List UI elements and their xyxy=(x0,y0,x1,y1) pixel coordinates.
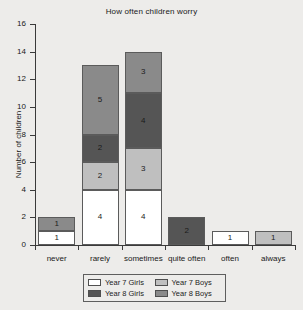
x-axis-tick xyxy=(165,245,166,250)
x-axis-tick xyxy=(35,245,36,250)
x-axis-tick-label: sometimes xyxy=(122,254,165,263)
x-axis-tick xyxy=(122,245,123,250)
bar-segment[interactable]: 1 xyxy=(212,231,249,245)
bar-segment[interactable]: 1 xyxy=(255,231,292,245)
x-axis-tick xyxy=(208,245,209,250)
bar-stack[interactable]: 4225 xyxy=(82,24,119,245)
chart-title: How often children worry xyxy=(0,7,303,16)
legend-swatch-icon xyxy=(88,279,101,286)
bar-segment-value: 4 xyxy=(141,117,145,125)
x-axis-tick xyxy=(252,245,253,250)
y-axis-tick-label: 4 xyxy=(0,186,26,194)
bar-segment[interactable]: 1 xyxy=(38,231,75,245)
bar-segment[interactable]: 4 xyxy=(125,190,162,245)
y-axis-tick-label: 8 xyxy=(0,131,26,139)
bar-segment[interactable]: 5 xyxy=(82,65,119,134)
x-axis-tick-label: quite often xyxy=(165,254,208,263)
x-axis-tick-label: never xyxy=(35,254,78,263)
bar-segment-value: 1 xyxy=(54,234,58,242)
x-axis-tick-label: rarely xyxy=(78,254,121,263)
bar-segment-value: 2 xyxy=(184,227,188,235)
bar-segment-value: 1 xyxy=(271,234,275,242)
legend-swatch-icon xyxy=(88,290,101,297)
legend-row: Year 7 GirlsYear 7 Boys xyxy=(88,277,221,288)
bar-segment[interactable]: 2 xyxy=(168,217,205,245)
y-axis-tick-label: 0 xyxy=(0,241,26,249)
chart-legend: Year 7 GirlsYear 7 BoysYear 8 GirlsYear … xyxy=(83,274,226,302)
bar-stack[interactable]: 1 xyxy=(212,24,249,245)
bar-segment[interactable]: 4 xyxy=(82,190,119,245)
bar-segment[interactable]: 2 xyxy=(82,135,119,163)
x-axis-tick-label: often xyxy=(208,254,251,263)
x-axis-tick xyxy=(78,245,79,250)
y-axis-tick-label: 10 xyxy=(0,103,26,111)
legend-label: Year 8 Boys xyxy=(172,290,212,298)
bar-stack[interactable]: 4343 xyxy=(125,24,162,245)
legend-item[interactable]: Year 8 Boys xyxy=(155,290,222,298)
bar-segment-value: 3 xyxy=(141,165,145,173)
bar-segment[interactable]: 1 xyxy=(38,217,75,231)
legend-label: Year 7 Boys xyxy=(172,279,212,287)
y-axis-tick-label: 14 xyxy=(0,48,26,56)
bar-segment[interactable]: 4 xyxy=(125,93,162,148)
bar-segment-value: 4 xyxy=(141,213,145,221)
legend-label: Year 8 Girls xyxy=(105,290,144,298)
legend-item[interactable]: Year 8 Girls xyxy=(88,290,155,298)
y-axis-tick-label: 6 xyxy=(0,158,26,166)
legend-label: Year 7 Girls xyxy=(105,279,144,287)
bar-stack[interactable]: 1 xyxy=(255,24,292,245)
x-axis-tick xyxy=(295,245,296,250)
legend-swatch-icon xyxy=(155,290,168,297)
bar-segment-value: 3 xyxy=(141,68,145,76)
legend-item[interactable]: Year 7 Girls xyxy=(88,279,155,287)
chart-container: How often children worry Number of child… xyxy=(0,0,303,310)
bar-segment-value: 1 xyxy=(54,220,58,228)
bar-segment-value: 2 xyxy=(98,172,102,180)
bar-stack[interactable]: 11 xyxy=(38,24,75,245)
bar-segment[interactable]: 3 xyxy=(125,148,162,189)
bar-segment[interactable]: 3 xyxy=(125,52,162,93)
legend-swatch-icon xyxy=(155,279,168,286)
bar-segment-value: 5 xyxy=(98,96,102,104)
bar-segment[interactable]: 2 xyxy=(82,162,119,190)
y-axis-tick-label: 2 xyxy=(0,213,26,221)
bar-segment-value: 2 xyxy=(98,144,102,152)
bar-stack[interactable]: 2 xyxy=(168,24,205,245)
bar-segment-value: 4 xyxy=(98,213,102,221)
y-axis-tick-label: 16 xyxy=(0,20,26,28)
x-axis-tick-label: always xyxy=(252,254,295,263)
bar-segment-value: 1 xyxy=(228,234,232,242)
y-axis-tick-label: 12 xyxy=(0,75,26,83)
legend-item[interactable]: Year 7 Boys xyxy=(155,279,222,287)
legend-row: Year 8 GirlsYear 8 Boys xyxy=(88,288,221,299)
plot-area: 1142254343211 xyxy=(35,24,295,245)
